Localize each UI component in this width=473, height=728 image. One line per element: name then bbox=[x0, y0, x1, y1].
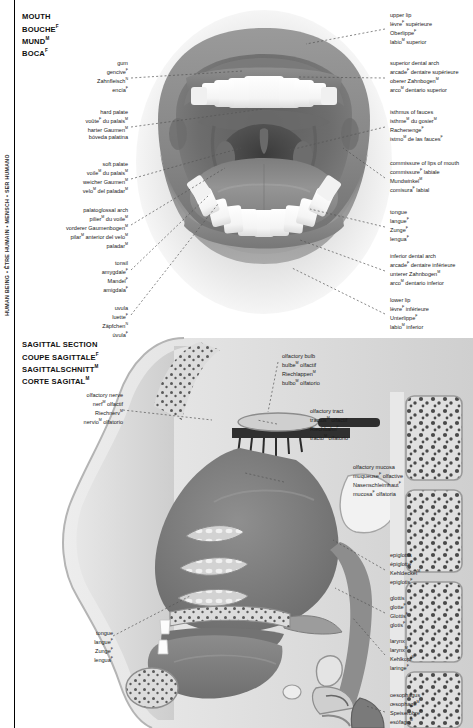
commissure-right bbox=[341, 118, 359, 150]
label-epiglottis: epiglottis épiglotteF KehldeckelM epiglo… bbox=[390, 552, 420, 586]
mouth-heading-en: MOUTH bbox=[22, 12, 59, 22]
sagittal-heading-fr: COUPE SAGITTALEF bbox=[22, 350, 99, 362]
upper-incisor-sagittal bbox=[160, 620, 170, 634]
mouth-heading: MOUTH BOUCHEF MUNDM BOCAF bbox=[22, 12, 59, 58]
mouth-heading-es: BOCAF bbox=[22, 46, 59, 58]
sagittal-heading: SAGITTAL SECTION COUPE SAGITTALEF SAGITT… bbox=[22, 340, 99, 386]
label-olfactory-nerve: olfactory nerve nerfM olfactif Riechnerv… bbox=[84, 392, 123, 426]
label-hard-palate: hard palate voûteF du palaisM harter Gau… bbox=[85, 109, 128, 141]
commissure-left bbox=[169, 118, 187, 150]
label-isthmus-of-fauces: isthmus of fauces isthmeM du gosierM Rac… bbox=[390, 109, 443, 143]
label-tongue-sagittal: tongue langueF ZungeF lenguaF bbox=[94, 630, 113, 664]
label-gum: gum genciveF ZahnfleischN encíaF bbox=[97, 60, 128, 94]
label-soft-palate: soft palate voileM du palaisM weicher Ga… bbox=[83, 161, 128, 195]
sagittal-heading-de: SAGITTALSCHNITTM bbox=[22, 362, 99, 374]
label-palatoglossal-arch: palatoglossal arch pilierM du voileM vor… bbox=[66, 207, 128, 250]
hyoid-bone bbox=[283, 685, 301, 699]
label-larynx: larynx larynxM KehlkopfM laringeF bbox=[390, 638, 415, 672]
lower-incisor-sagittal bbox=[158, 640, 168, 654]
label-glottis: glottis glotteF GlottisF glotisF bbox=[390, 595, 408, 629]
label-olfactory-bulb: olfactory bulb bulbeM olfactif Riechlapp… bbox=[282, 353, 320, 387]
reference-page: HUMAN BEING • ÊTRE HUMAIN • MENSCH • SER… bbox=[0, 0, 473, 728]
mandible-section bbox=[126, 668, 178, 708]
sagittal-heading-en: SAGITTAL SECTION bbox=[22, 340, 99, 350]
label-oesophagus: oesophagus œsophageM SpeiseröhreF esófag… bbox=[390, 692, 422, 726]
label-olfactory-tract: olfactory tract tractusM olfactif Riechb… bbox=[310, 408, 348, 442]
label-upper-lip: upper lip lèvreF supérieure OberlippeF l… bbox=[390, 12, 432, 46]
mouth-illustration bbox=[128, 2, 400, 332]
mouth-heading-fr: BOUCHEF bbox=[22, 22, 59, 34]
sidebar-vertical-label: HUMAN BEING • ÊTRE HUMAIN • MENSCH • SER… bbox=[4, 154, 10, 316]
sagittal-heading-es: CORTE SAGITALM bbox=[22, 374, 99, 386]
left-margin-rule bbox=[14, 0, 15, 728]
vertebra-1 bbox=[406, 396, 462, 480]
label-tongue-mouth: tongue langueF ZungeF lenguaF bbox=[390, 209, 409, 243]
label-lower-lip: lower lip lèvreF inférieure UnterlippeF … bbox=[390, 297, 429, 331]
sidebar-vertical-tab: HUMAN BEING • ÊTRE HUMAIN • MENSCH • SER… bbox=[1, 120, 13, 350]
label-superior-dental-arch: superior dental arch arcadeF dentaire su… bbox=[390, 60, 459, 94]
label-commissure-of-lips: commissure of lips of mouth commissureF … bbox=[390, 160, 459, 194]
label-tonsil: tonsil amygdaleF MandelF amigdalaF bbox=[102, 260, 128, 294]
label-olfactory-mucosa: olfactory mucosa muqueuseF olfactive Nas… bbox=[353, 464, 403, 498]
label-inferior-dental-arch: inferior dental arch arcadeF dentaire in… bbox=[390, 253, 455, 287]
label-uvula: uvula luetteF ZäpfchenN úvulaF bbox=[102, 305, 128, 339]
mouth-heading-de: MUNDM bbox=[22, 34, 59, 46]
olfactory-bulb-shape bbox=[238, 413, 318, 431]
